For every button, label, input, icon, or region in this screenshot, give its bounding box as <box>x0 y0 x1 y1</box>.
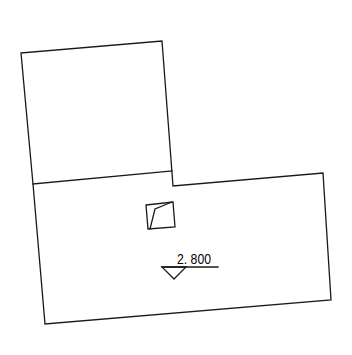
elevation-label: 2. 800 <box>177 251 211 267</box>
drawing-canvas: 2. 800 <box>0 0 352 355</box>
room-divider <box>33 171 172 184</box>
column-symbol-diagonal <box>150 202 172 229</box>
elevation-triangle-icon <box>162 267 186 279</box>
floor-plan: 2. 800 <box>0 0 352 355</box>
building-outline <box>21 41 331 324</box>
